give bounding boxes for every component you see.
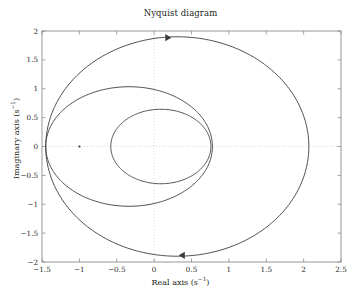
svg-text:0.5: 0.5 (186, 265, 198, 274)
svg-text:1: 1 (33, 84, 38, 93)
tick-marks (42, 31, 341, 262)
svg-text:0.5: 0.5 (27, 113, 39, 122)
plot-area: −1.5−1−0.500.511.522.5−2−1.5−1−0.500.511… (0, 0, 361, 300)
svg-text:−1: −1 (74, 265, 85, 274)
zero-gridlines (42, 31, 341, 262)
svg-text:1: 1 (227, 265, 232, 274)
svg-text:2: 2 (301, 265, 306, 274)
svg-text:1.5: 1.5 (27, 55, 39, 64)
svg-text:0: 0 (33, 142, 38, 151)
svg-text:0: 0 (152, 265, 157, 274)
svg-text:−0.5: −0.5 (21, 171, 39, 180)
svg-text:−1.5: −1.5 (21, 229, 39, 238)
axes-frame (42, 31, 341, 262)
svg-text:2.5: 2.5 (335, 265, 347, 274)
tick-labels: −1.5−1−0.500.511.522.5−2−1.5−1−0.500.511… (21, 27, 348, 275)
critical-point-marker (78, 146, 80, 148)
svg-text:1.5: 1.5 (261, 265, 273, 274)
nyquist-figure: Nyquist diagram Real axis (s−1) Imaginar… (0, 0, 361, 300)
svg-text:−2: −2 (27, 258, 38, 267)
svg-text:−1: −1 (27, 200, 38, 209)
svg-text:−0.5: −0.5 (108, 265, 126, 274)
svg-text:2: 2 (33, 27, 38, 36)
